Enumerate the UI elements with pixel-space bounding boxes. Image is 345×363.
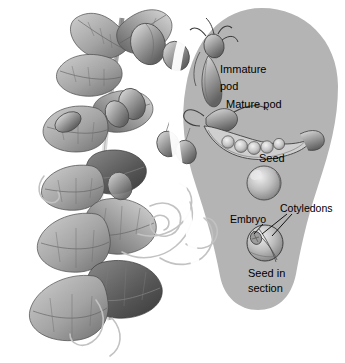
- leaf-cluster-lower: [29, 198, 162, 340]
- bean-plant-diagram: Immature pod Mature pod Seed Cotyledons …: [0, 0, 345, 363]
- label-immature-pod-line1: Immature: [220, 63, 266, 75]
- seed-specimen: [247, 166, 281, 200]
- label-seed-in-section-line1: Seed in: [248, 267, 285, 279]
- label-mature-pod: Mature pod: [226, 98, 282, 110]
- bean-plant: [29, 10, 217, 356]
- figure-canvas: Immature pod Mature pod Seed Cotyledons …: [0, 0, 345, 363]
- label-seed-in-section-line2: section: [248, 282, 283, 294]
- label-cotyledons: Cotyledons: [280, 202, 333, 214]
- leaf-upper-left: [56, 54, 122, 96]
- label-immature-pod-line2: pod: [220, 80, 238, 92]
- seed-section-specimen: [247, 225, 283, 262]
- label-seed: Seed: [259, 152, 285, 164]
- label-embryo: Embryo: [230, 213, 266, 225]
